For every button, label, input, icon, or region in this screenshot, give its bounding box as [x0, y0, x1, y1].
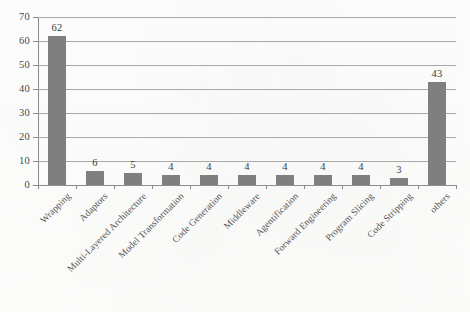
y-tick-label-0: 0 — [4, 179, 30, 190]
x-category-label: Middleware — [222, 191, 262, 231]
gridline-0 — [38, 185, 456, 186]
bar-value-label: 4 — [156, 161, 186, 172]
bar — [314, 175, 332, 185]
y-tick-label-50: 50 — [4, 59, 30, 70]
gridline-70 — [38, 17, 456, 18]
x-tick-mark — [76, 185, 77, 189]
x-tick-mark — [418, 185, 419, 189]
y-tick-mark-40 — [33, 89, 38, 90]
x-tick-mark — [228, 185, 229, 189]
y-tick-label-60: 60 — [4, 35, 30, 46]
bar-value-label: 4 — [308, 161, 338, 172]
bar — [162, 175, 180, 185]
gridline-20 — [38, 137, 456, 138]
y-tick-mark-60 — [33, 41, 38, 42]
gridline-30 — [38, 113, 456, 114]
bar — [86, 171, 104, 185]
bar-value-label: 43 — [422, 68, 452, 79]
bar — [124, 173, 142, 185]
bar — [428, 82, 446, 185]
gridline-40 — [38, 89, 456, 90]
x-category-label: Wrapping — [38, 191, 72, 225]
x-label-anchor: Middleware — [254, 191, 255, 192]
bar-value-label: 4 — [194, 161, 224, 172]
x-tick-mark — [38, 185, 39, 189]
bar — [48, 36, 66, 185]
x-label-anchor: Model Transformation — [178, 191, 179, 192]
bar-value-label: 62 — [42, 22, 72, 33]
x-tick-mark — [304, 185, 305, 189]
y-tick-label-30: 30 — [4, 107, 30, 118]
x-label-anchor: Forward Engineering — [330, 191, 331, 192]
bar — [238, 175, 256, 185]
y-tick-mark-70 — [33, 17, 38, 18]
x-label-anchor: Wrapping — [64, 191, 65, 192]
bar-chart: 010203040506070 6265444444343 WrappingAd… — [0, 0, 470, 312]
y-tick-mark-20 — [33, 137, 38, 138]
bar-value-label: 5 — [118, 159, 148, 170]
x-label-anchor: Adaptors — [102, 191, 103, 192]
x-tick-mark — [114, 185, 115, 189]
x-label-anchor: others — [444, 191, 445, 192]
x-tick-mark — [152, 185, 153, 189]
bar — [200, 175, 218, 185]
bar-value-label: 4 — [346, 161, 376, 172]
y-tick-label-70: 70 — [4, 11, 30, 22]
x-tick-mark — [190, 185, 191, 189]
y-axis-labels: 010203040506070 — [0, 0, 30, 312]
x-tick-mark — [380, 185, 381, 189]
bar — [276, 175, 294, 185]
x-label-anchor: Code Stripping — [406, 191, 407, 192]
bar — [352, 175, 370, 185]
bar-value-label: 4 — [270, 161, 300, 172]
y-tick-label-10: 10 — [4, 155, 30, 166]
y-tick-label-40: 40 — [4, 83, 30, 94]
bar-value-label: 4 — [232, 161, 262, 172]
x-category-label: others — [428, 191, 452, 215]
x-label-anchor: Code Generation — [216, 191, 217, 192]
bar-value-label: 3 — [384, 164, 414, 175]
y-tick-mark-30 — [33, 113, 38, 114]
y-tick-label-20: 20 — [4, 131, 30, 142]
x-label-anchor: Agentification — [292, 191, 293, 192]
y-tick-mark-10 — [33, 161, 38, 162]
x-label-anchor: Program Slicing — [368, 191, 369, 192]
bar-value-label: 6 — [80, 157, 110, 168]
gridline-60 — [38, 41, 456, 42]
x-category-label: Adaptors — [78, 191, 110, 223]
x-tick-mark — [266, 185, 267, 189]
x-tick-mark — [456, 185, 457, 189]
y-tick-mark-50 — [33, 65, 38, 66]
x-tick-mark — [342, 185, 343, 189]
bar — [390, 178, 408, 185]
x-category-label: Model Transformation — [117, 191, 186, 260]
y-tick-mark-0 — [33, 185, 38, 186]
x-label-anchor: Multi-Layered Architecture — [140, 191, 141, 192]
gridline-50 — [38, 65, 456, 66]
